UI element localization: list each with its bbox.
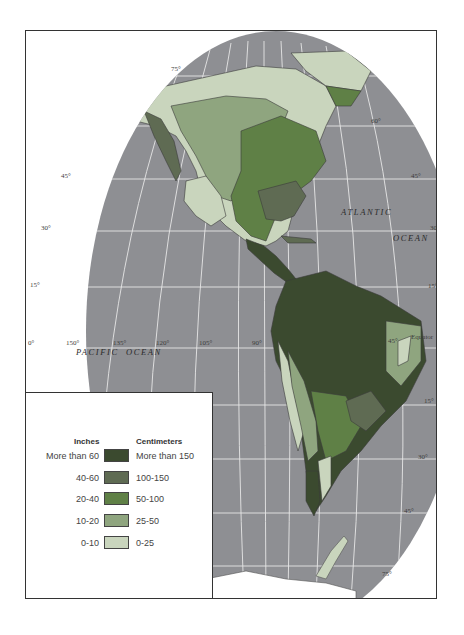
legend-centimeters-header: Centimeters bbox=[136, 437, 182, 446]
legend-swatch bbox=[104, 471, 129, 484]
atlantic-label-1: ATLANTIC bbox=[340, 207, 392, 217]
legend-inches-label: More than 60 bbox=[46, 451, 99, 461]
atlantic-label-2: OCEAN bbox=[393, 233, 429, 243]
lat-label-30-w: 30° bbox=[41, 224, 51, 232]
equator-label: Equator bbox=[411, 333, 434, 341]
legend-item: 20-4050-100 bbox=[26, 492, 213, 508]
legend-centimeters-label: 100-150 bbox=[136, 473, 169, 483]
lat-label-0: 0° bbox=[28, 339, 35, 347]
map-frame: 75° 60° 45° 45° 30° 30° 15° 15° 0° Equat… bbox=[25, 30, 437, 599]
legend-item: 0-100-25 bbox=[26, 536, 213, 552]
lat-label-15-w: 15° bbox=[30, 281, 40, 289]
legend-item: 40-60100-150 bbox=[26, 471, 213, 487]
legend-inches-label: 20-40 bbox=[76, 494, 99, 504]
lat-label-60: 60° bbox=[371, 117, 381, 125]
legend-item: More than 60More than 150 bbox=[26, 449, 213, 465]
lon-label-105: 105° bbox=[199, 339, 213, 347]
lon-label-75: 75° bbox=[382, 570, 392, 578]
legend-centimeters-label: More than 150 bbox=[136, 451, 194, 461]
lon-label-120: 120° bbox=[156, 339, 170, 347]
lon-label-150: 150° bbox=[66, 339, 80, 347]
legend-inches-label: 40-60 bbox=[76, 473, 99, 483]
legend-inches-label: 10-20 bbox=[76, 516, 99, 526]
lon-label-135: 135° bbox=[113, 339, 127, 347]
lon-label-90: 90° bbox=[252, 339, 262, 347]
lat-label-s30: 30° bbox=[418, 453, 428, 461]
legend-swatch bbox=[104, 492, 129, 505]
lat-label-15-e: 15° bbox=[428, 282, 437, 290]
lat-label-s45: 45° bbox=[404, 507, 414, 515]
legend-inches-label: 0-10 bbox=[81, 538, 99, 548]
lat-label-45-w: 45° bbox=[61, 172, 71, 180]
legend-centimeters-label: 50-100 bbox=[136, 494, 164, 504]
lon-label-45: 45° bbox=[388, 337, 398, 345]
legend-swatch bbox=[104, 536, 129, 549]
legend-centimeters-label: 25-50 bbox=[136, 516, 159, 526]
lat-label-30-e: 30° bbox=[430, 224, 437, 232]
hawaii bbox=[73, 261, 86, 273]
legend-swatch bbox=[104, 449, 129, 462]
pacific-label-2: OCEAN bbox=[126, 347, 162, 357]
lat-label-s15-e: 15° bbox=[424, 397, 434, 405]
legend-swatch bbox=[104, 514, 129, 527]
legend-inches-header: Inches bbox=[74, 437, 99, 446]
lat-label-45-e: 45° bbox=[411, 172, 421, 180]
legend-item: 10-2025-50 bbox=[26, 514, 213, 530]
lat-label-75: 75° bbox=[171, 65, 181, 73]
pacific-label-1: PACIFIC bbox=[75, 347, 119, 357]
legend: Inches Centimeters More than 60More than… bbox=[26, 392, 213, 599]
legend-centimeters-label: 0-25 bbox=[136, 538, 154, 548]
